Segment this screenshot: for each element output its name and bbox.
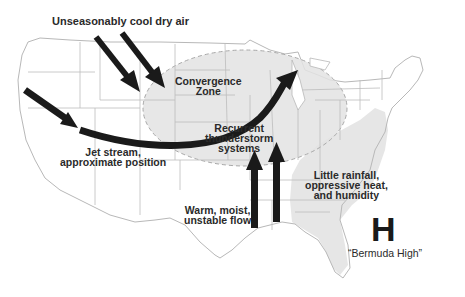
warm-flow-label: Warm, moist, unstable flow bbox=[184, 205, 251, 225]
thunderstorm-label: Recurrent thunderstorm systems bbox=[205, 123, 273, 153]
bermuda-high-label: “Bermuda High” bbox=[348, 247, 422, 259]
convergence-zone-label: Convergence Zone bbox=[175, 76, 242, 96]
high-pressure-symbol: H bbox=[371, 212, 396, 246]
cool-air-label: Unseasonably cool dry air bbox=[52, 16, 189, 26]
southeast-label: Little rainfall, oppressive heat, and hu… bbox=[305, 170, 388, 200]
jet-stream-label: Jet stream, approximate position bbox=[60, 147, 166, 167]
weather-diagram: Unseasonably cool dry air Convergence Zo… bbox=[0, 0, 465, 297]
